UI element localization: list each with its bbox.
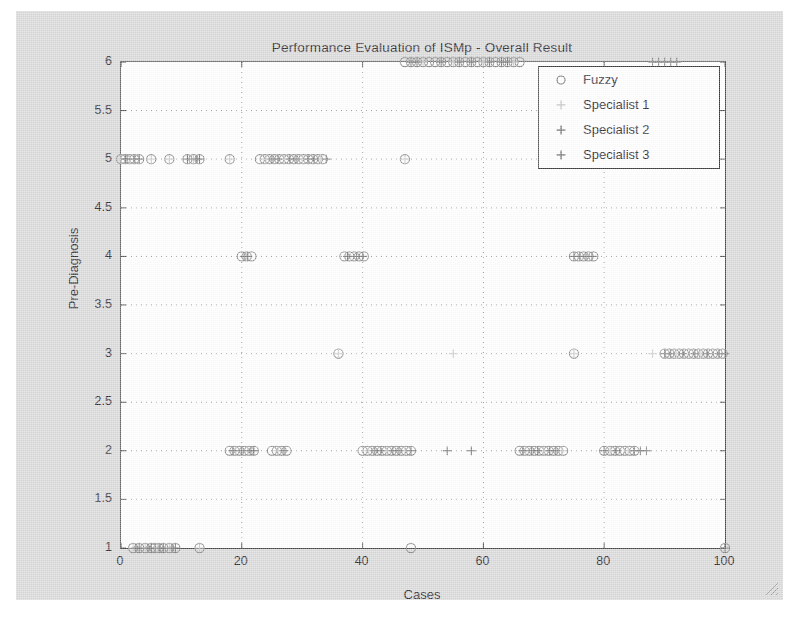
y-tick-label: 5.5 bbox=[72, 103, 112, 117]
y-tick-label: 3.5 bbox=[72, 297, 112, 311]
y-tick-label: 6 bbox=[72, 54, 112, 68]
plus-marker-icon bbox=[539, 122, 583, 138]
y-tick-label: 4.5 bbox=[72, 200, 112, 214]
y-tick-label: 5 bbox=[72, 151, 112, 165]
y-tick-label: 1.5 bbox=[72, 491, 112, 505]
x-tick-label: 60 bbox=[457, 554, 507, 568]
resize-grip-icon bbox=[762, 579, 780, 597]
legend-item-specialist-1[interactable]: Specialist 1 bbox=[539, 92, 719, 117]
plus-marker-icon bbox=[539, 147, 583, 163]
x-axis-label: Cases bbox=[120, 587, 724, 602]
legend-item-specialist-2[interactable]: Specialist 2 bbox=[539, 117, 719, 142]
legend-item-label: Specialist 3 bbox=[583, 147, 649, 162]
y-tick-label: 2.5 bbox=[72, 394, 112, 408]
legend-item-specialist-3[interactable]: Specialist 3 bbox=[539, 142, 719, 167]
plus-marker-icon bbox=[539, 97, 583, 113]
legend-item-label: Fuzzy bbox=[583, 72, 618, 87]
x-tick-label: 20 bbox=[216, 554, 266, 568]
x-tick-label: 80 bbox=[578, 554, 628, 568]
circle-marker-icon bbox=[539, 72, 583, 88]
matlab-figure-canvas: Performance Evaluation of ISMp - Overall… bbox=[16, 11, 783, 600]
legend-item-fuzzy[interactable]: Fuzzy bbox=[539, 67, 719, 92]
x-tick-label: 0 bbox=[95, 554, 145, 568]
y-tick-label: 3 bbox=[72, 346, 112, 360]
x-tick-label: 40 bbox=[337, 554, 387, 568]
y-tick-label: 2 bbox=[72, 443, 112, 457]
y-tick-label: 4 bbox=[72, 248, 112, 262]
x-axis-tick-labels: 020406080100 bbox=[120, 554, 724, 576]
x-tick-label: 100 bbox=[699, 554, 749, 568]
legend-item-label: Specialist 2 bbox=[583, 122, 649, 137]
y-axis-tick-labels: 11.522.533.544.555.56 bbox=[66, 61, 112, 547]
y-tick-label: 1 bbox=[72, 540, 112, 554]
chart-legend[interactable]: FuzzySpecialist 1Specialist 2Specialist … bbox=[538, 66, 720, 169]
figure-window: Performance Evaluation of ISMp - Overall… bbox=[0, 0, 800, 625]
legend-item-label: Specialist 1 bbox=[583, 97, 649, 112]
chart-title: Performance Evaluation of ISMp - Overall… bbox=[120, 40, 724, 55]
